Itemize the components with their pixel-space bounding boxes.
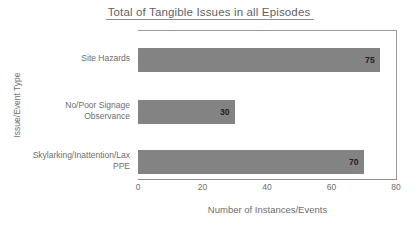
bar: 75 (138, 48, 380, 72)
x-axis-tick-label: 60 (327, 182, 336, 192)
bar-chart-figure: Total of Tangible Issues in all Episodes… (0, 0, 420, 232)
bar: 30 (138, 100, 235, 124)
bar-value-label: 75 (365, 55, 375, 65)
category-tick-label: Site Hazards (18, 53, 134, 64)
bar-value-label: 30 (220, 107, 230, 117)
category-tick-labels: Site Hazards No/Poor Signage Observance … (18, 30, 134, 180)
x-axis-title: Number of Instances/Events (138, 204, 397, 215)
x-axis-tick-label: 40 (262, 182, 271, 192)
x-axis-tick-labels: 0 20 40 60 80 (138, 182, 397, 196)
chart-title: Total of Tangible Issues in all Episodes (0, 6, 420, 20)
category-tick-label: Skylarking/Inattention/Lax PPE (18, 150, 134, 171)
x-axis-tick-label: 0 (136, 182, 141, 192)
bar-value-label: 70 (349, 157, 359, 167)
plot-area: 75 30 70 (138, 30, 397, 180)
category-tick-label: No/Poor Signage Observance (18, 100, 134, 121)
x-axis-tick-label: 20 (198, 182, 207, 192)
x-axis-tick-label: 80 (391, 182, 400, 192)
bar: 70 (138, 150, 364, 174)
chart-title-text: Total of Tangible Issues in all Episodes (106, 6, 315, 20)
